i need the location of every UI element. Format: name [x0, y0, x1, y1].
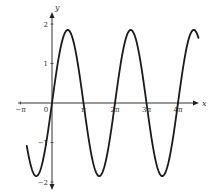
- y-axis-arrow-up-icon: [50, 12, 55, 18]
- x-tick-label: 0: [44, 106, 48, 114]
- x-tick-label: −π: [15, 106, 26, 114]
- axes: [18, 12, 199, 190]
- x-axis-label: x: [202, 99, 207, 108]
- y-tick-label: −2: [38, 179, 48, 187]
- y-axis-arrow-down-icon: [50, 184, 55, 190]
- x-axis-arrow-icon: [193, 101, 199, 106]
- y-tick-label: 1: [44, 60, 48, 68]
- sine-plot: −π0π2π3π4π21−1−2 x y: [0, 0, 215, 195]
- y-tick-label: 2: [44, 21, 48, 29]
- y-axis-label: y: [54, 3, 60, 12]
